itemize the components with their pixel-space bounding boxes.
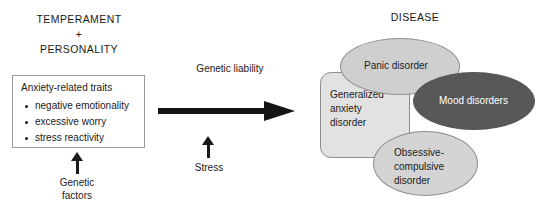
list-item: stress reactivity (23, 130, 129, 146)
list-item: negative emotionality (23, 98, 129, 114)
genetic-liability-label: Genetic liability (180, 62, 280, 75)
heading-line-plus: + (12, 27, 146, 42)
genetic-factors-caption: Geneticfactors (47, 176, 107, 202)
label-mood-disorders: Mood disorders (439, 94, 508, 108)
anxiety-traits-list: negative emotionality excessive worry st… (23, 98, 129, 146)
genetic-liability-arrow-icon (158, 101, 295, 121)
anxiety-traits-box: Anxiety-related traits negative emotiona… (12, 75, 145, 148)
heading-line-temperament: TEMPERAMENT (12, 12, 146, 27)
diagram-canvas: TEMPERAMENT + PERSONALITY Anxiety-relate… (0, 0, 541, 210)
label-panic-disorder: Panic disorder (364, 59, 428, 73)
stress-up-arrow-icon (202, 136, 215, 158)
arrow-head (264, 101, 295, 121)
label-obsessive-compulsive-disorder: Obsessive-compulsivedisorder (394, 146, 444, 188)
stress-caption: Stress (179, 161, 239, 174)
disease-title: DISEASE (370, 11, 460, 23)
genetic-factors-up-arrow-icon (71, 152, 84, 174)
temperament-personality-heading: TEMPERAMENT + PERSONALITY (12, 12, 146, 58)
heading-line-personality: PERSONALITY (12, 42, 146, 57)
arrow-shaft (158, 108, 268, 114)
arrow-shaft (76, 159, 79, 174)
arrow-shaft (207, 143, 210, 158)
label-generalized-anxiety-disorder: Generalizedanxietydisorder (330, 88, 384, 130)
list-item: excessive worry (23, 114, 129, 130)
anxiety-traits-title: Anxiety-related traits (21, 82, 112, 93)
